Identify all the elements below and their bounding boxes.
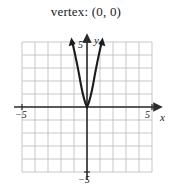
y-axis-label: y	[93, 34, 99, 46]
figure-container: vertex: (0, 0)	[0, 0, 172, 188]
x-axis-max-tick-label: 5	[145, 109, 150, 120]
y-axis-arrowhead	[84, 35, 91, 42]
y-axis-max-tick-label: 5	[78, 39, 83, 50]
x-axis-label: x	[159, 111, 165, 123]
graph-svg: 5 −5 5 −5 y x	[0, 22, 172, 188]
y-axis-min-tick-label: −5	[78, 174, 90, 185]
coordinate-plane: 5 −5 5 −5 y x	[0, 22, 172, 188]
x-axis-min-tick-label: −5	[15, 109, 27, 120]
x-axis-arrowhead	[154, 104, 161, 111]
page-title: vertex: (0, 0)	[0, 4, 172, 20]
